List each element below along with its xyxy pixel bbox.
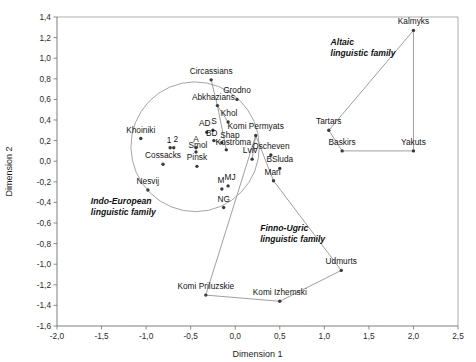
data-point[interactable]	[220, 187, 223, 190]
y-tick-label: -1,2	[37, 280, 52, 290]
data-point-label: Cossacks	[145, 150, 181, 160]
y-tick-label: -0,4	[37, 197, 52, 207]
data-point-label: BSluda	[266, 154, 293, 164]
data-point-label: Komi Permyats	[228, 121, 284, 131]
data-point[interactable]	[327, 129, 330, 132]
family-label-line: linguistic family	[331, 48, 397, 58]
data-point[interactable]	[139, 137, 142, 140]
data-point-label: Pinsk	[187, 152, 208, 162]
data-point-label: Nesvij	[137, 176, 160, 186]
x-tick-label: -0,5	[184, 331, 199, 341]
data-point-label: Khol	[221, 108, 238, 118]
data-points: CircassiansAbkhaziansGrodnoKholADSBDShap…	[126, 16, 429, 303]
data-point[interactable]	[168, 146, 171, 149]
y-tick-label: 1,2	[39, 33, 51, 43]
data-point-label: Grodno	[223, 85, 251, 95]
x-tick-label: -1,5	[94, 331, 109, 341]
y-tick-label: 0,8	[39, 74, 51, 84]
y-tick-label: -1,4	[37, 300, 52, 310]
data-point-label: Komi Izhemski	[253, 287, 307, 297]
x-axis-title: Dimension 1	[232, 349, 282, 359]
family-label-line: Finno-Ugric	[260, 223, 308, 233]
data-point-label: Komi Priluzskie	[177, 281, 234, 291]
plot-frame	[57, 17, 458, 326]
x-tick-label: 0,5	[274, 331, 286, 341]
data-point-label: Tartars	[316, 116, 341, 126]
y-tick-label: -0,8	[37, 239, 52, 249]
y-tick-label: 0,2	[39, 136, 51, 146]
x-tick-label: 1,5	[363, 331, 375, 341]
x-tick-label: 1,0	[319, 331, 331, 341]
y-tick-label: 1,4	[39, 12, 51, 22]
data-point[interactable]	[195, 165, 198, 168]
data-point[interactable]	[278, 300, 281, 303]
x-tick-label: 2,0	[408, 331, 420, 341]
data-point[interactable]	[225, 148, 228, 151]
y-axis-title: Dimension 2	[4, 146, 14, 196]
data-point-label: Smol	[189, 140, 208, 150]
data-point-label: Khoiniki	[126, 125, 155, 135]
data-point-label: Circassians	[190, 66, 233, 76]
y-tick-label: 0,0	[39, 156, 51, 166]
data-point-label: Yakuts	[401, 137, 426, 147]
family-label: Finno-Ugriclinguistic family	[260, 223, 326, 244]
y-tick-label: -1,0	[37, 259, 52, 269]
data-point-label: Udmurts	[326, 256, 357, 266]
data-point-label: S	[211, 116, 217, 126]
data-point-label: Kalmyks	[398, 16, 429, 26]
data-point[interactable]	[235, 98, 238, 101]
y-tick-label: -0,2	[37, 177, 52, 187]
data-point[interactable]	[272, 179, 275, 182]
data-point[interactable]	[161, 163, 164, 166]
data-point-label: MJ	[225, 172, 236, 182]
data-point-label: NG	[217, 194, 229, 204]
data-point[interactable]	[340, 149, 343, 152]
data-point[interactable]	[412, 29, 415, 32]
data-point[interactable]	[209, 78, 212, 81]
data-point[interactable]	[216, 104, 219, 107]
family-label-line: linguistic family	[260, 234, 326, 244]
data-point-label: Mari	[264, 167, 280, 177]
data-point[interactable]	[340, 269, 343, 272]
family-label-line: Indo-European	[91, 196, 152, 206]
family-label: Altaiclinguistic family	[330, 37, 397, 58]
family-label-line: Altaic	[330, 37, 355, 47]
y-tick-label: 0,4	[39, 115, 51, 125]
data-point[interactable]	[204, 293, 207, 296]
chart-page: -2,0-1,5-1,0-0,50,00,51,01,52,02,51,41,2…	[0, 0, 476, 362]
data-point[interactable]	[226, 184, 229, 187]
x-tick-label: -2,0	[50, 331, 65, 341]
data-point-label: 2	[173, 134, 178, 144]
data-point[interactable]	[254, 134, 257, 137]
family-label-line: linguistic family	[91, 207, 157, 217]
y-tick-label: -1,6	[37, 321, 52, 331]
y-tick-label: -0,6	[37, 218, 52, 228]
y-tick-label: 0,6	[39, 94, 51, 104]
data-point[interactable]	[172, 146, 175, 149]
axis-ticks: -2,0-1,5-1,0-0,50,00,51,01,52,02,51,41,2…	[37, 12, 464, 341]
data-point-label: Baskirs	[329, 137, 356, 147]
family-label: Indo-Europeanlinguistic family	[91, 196, 157, 217]
x-tick-label: -1,0	[139, 331, 154, 341]
y-tick-label: 1,0	[39, 53, 51, 63]
data-point-label: Oscheven	[252, 141, 290, 151]
x-tick-label: 0,0	[229, 331, 241, 341]
data-point[interactable]	[250, 157, 253, 160]
scatter-plot: -2,0-1,5-1,0-0,50,00,51,01,52,02,51,41,2…	[0, 0, 476, 362]
x-tick-label: 2,5	[452, 331, 464, 341]
data-point-label: M	[217, 175, 224, 185]
data-point-label: 1	[167, 135, 172, 145]
data-point[interactable]	[146, 188, 149, 191]
data-point[interactable]	[412, 149, 415, 152]
data-point[interactable]	[222, 206, 225, 209]
